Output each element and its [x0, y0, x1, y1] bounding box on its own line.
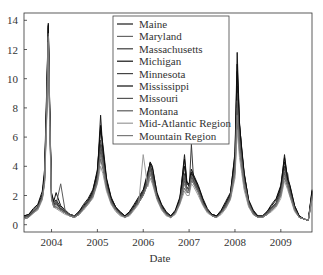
x-tick-label: 2009	[270, 236, 293, 248]
y-tick-label: 10	[7, 73, 19, 85]
x-tick-label: 2007	[178, 236, 201, 248]
y-tick-label: 0	[13, 219, 19, 231]
y-tick-label: 14	[7, 14, 19, 26]
x-axis-label: Date	[150, 252, 171, 264]
x-tick-label: 2005	[86, 236, 109, 248]
legend-label: Maryland	[139, 30, 182, 42]
legend-label: Massachusetts	[139, 43, 203, 55]
x-tick-label: 2004	[41, 236, 64, 248]
line-chart: 02468101214 200420052006200720082009 Dat…	[0, 0, 323, 275]
legend-label: Mountain Region	[139, 130, 217, 142]
legend-label: Mid-Atlantic Region	[139, 117, 231, 129]
y-tick-label: 8	[13, 102, 19, 114]
legend: MaineMarylandMassachusettsMichiganMinnes…	[113, 16, 231, 144]
x-tick-label: 2006	[132, 236, 155, 248]
y-tick-label: 6	[13, 131, 19, 143]
legend-label: Michigan	[139, 55, 182, 67]
legend-label: Minnesota	[139, 68, 186, 80]
y-tick-label: 4	[13, 160, 19, 172]
legend-label: Montana	[139, 105, 178, 117]
legend-label: Missouri	[139, 92, 178, 104]
legend-label: Mississippi	[139, 80, 189, 92]
legend-label: Maine	[139, 18, 167, 30]
y-tick-label: 12	[7, 44, 18, 56]
y-tick-label: 2	[13, 190, 19, 202]
x-tick-label: 2008	[224, 236, 247, 248]
